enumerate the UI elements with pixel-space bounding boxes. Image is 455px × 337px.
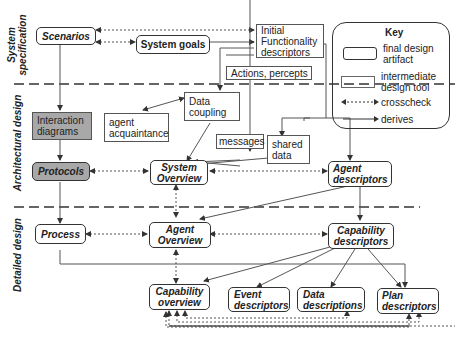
capability-descriptors-node[interactable]: Capability descriptors: [328, 223, 394, 249]
protocols-node[interactable]: Protocols: [32, 162, 90, 181]
actions-percepts-node[interactable]: Actions, percepts: [226, 66, 312, 80]
legend-key: Key final design artifact intermediate d…: [332, 22, 450, 129]
system-goals-node[interactable]: System goals: [136, 35, 210, 54]
agent-descriptors-node[interactable]: Agent descriptors: [328, 161, 392, 187]
data-coupling-node[interactable]: Data coupling: [184, 92, 240, 121]
final-artifact-swatch-icon: [343, 47, 377, 60]
initial-functionality-descriptors-node[interactable]: Initial Functionality descriptors: [256, 24, 324, 58]
messages-node[interactable]: messages: [216, 134, 264, 149]
agent-overview-node[interactable]: Agent Overview: [149, 222, 211, 248]
derives-arrow-icon: [341, 114, 381, 124]
legend-title: Key: [385, 27, 403, 38]
legend-crosscheck-label: crosscheck: [381, 97, 431, 108]
data-descriptions-node[interactable]: Data descriptions: [297, 287, 365, 312]
intermediate-tool-swatch-icon: [341, 76, 375, 88]
crosscheck-arrow-icon: [341, 97, 381, 107]
shared-data-node[interactable]: shared data: [267, 135, 310, 164]
system-overview-node[interactable]: System Overview: [150, 160, 208, 185]
capability-overview-node[interactable]: Capability overview: [149, 284, 210, 310]
phase-label-system-specification: System specification: [6, 10, 28, 80]
process-node[interactable]: Process: [35, 224, 86, 244]
plan-descriptors-node[interactable]: Plan descriptors: [377, 288, 439, 314]
legend-intermediate-label: intermediate design tool: [381, 71, 436, 93]
event-descriptors-node[interactable]: Event descriptors: [228, 287, 290, 312]
phase-label-detailed-design: Detailed design: [12, 210, 23, 300]
legend-final-label: final design artifact: [383, 43, 434, 65]
legend-derives-label: derives: [381, 114, 413, 125]
agent-acquaintance-node[interactable]: agent acquaintance: [104, 113, 169, 142]
interaction-diagrams-node[interactable]: Interaction diagrams: [32, 112, 92, 140]
phase-label-architectural-design: Architectural design: [12, 88, 23, 198]
scenarios-node[interactable]: Scenarios: [36, 27, 96, 45]
